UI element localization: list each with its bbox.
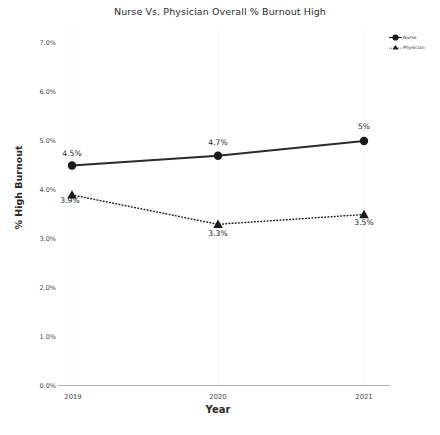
chart-container: Nurse Vs. Physician Overall % Burnout Hi… [0, 0, 440, 435]
data-label-physician-2021: 3.5% [344, 218, 384, 227]
legend-label-physician: Physician [402, 45, 425, 50]
triangle-marker-icon [389, 43, 402, 52]
data-label-nurse-2020: 4.7% [198, 138, 238, 147]
data-label-physician-2019: 3.9% [50, 196, 90, 205]
data-label-nurse-2021: 5% [344, 122, 384, 131]
data-point-nurse-2019 [68, 161, 76, 169]
data-point-nurse-2020 [214, 152, 222, 160]
legend-item-physician[interactable]: Physician [389, 43, 439, 52]
data-label-nurse-2019: 4.5% [52, 149, 92, 158]
chart-legend: Nurse Physician [389, 33, 439, 53]
data-label-physician-2020: 3.3% [198, 229, 238, 238]
data-point-nurse-2021 [360, 137, 368, 145]
data-point-physician-2020 [213, 220, 223, 228]
circle-marker-icon [389, 33, 402, 42]
legend-item-nurse[interactable]: Nurse [389, 33, 439, 42]
legend-label-nurse: Nurse [402, 35, 416, 40]
